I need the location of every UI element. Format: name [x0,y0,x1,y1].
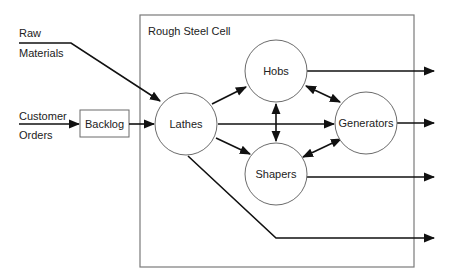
flow-diagram: Rough Steel Cell Raw Materials Customer … [0,0,452,279]
cell-title: Rough Steel Cell [148,25,231,37]
node-shapers: Shapers [245,143,307,205]
node-generators: Generators [335,92,397,154]
edge-hobs-generators [306,86,340,102]
raw-materials-label-line2: Materials [19,47,64,59]
customer-orders-label-line2: Orders [19,129,53,141]
node-lathes: Lathes [155,93,217,155]
lathes-label: Lathes [169,118,203,130]
backlog-label: Backlog [85,118,124,130]
generators-label: Generators [338,117,394,129]
shapers-label: Shapers [256,168,297,180]
node-hobs: Hobs [245,40,307,102]
hobs-label: Hobs [263,65,289,77]
edge-shapers-generators [303,139,341,157]
edge-lathes-to-output [188,156,434,238]
edge-lathes-to-shapers [216,138,250,154]
edge-lathes-to-hobs [212,87,246,104]
customer-orders-label-line1: Customer [19,110,67,122]
raw-materials-label-line1: Raw [19,27,41,39]
